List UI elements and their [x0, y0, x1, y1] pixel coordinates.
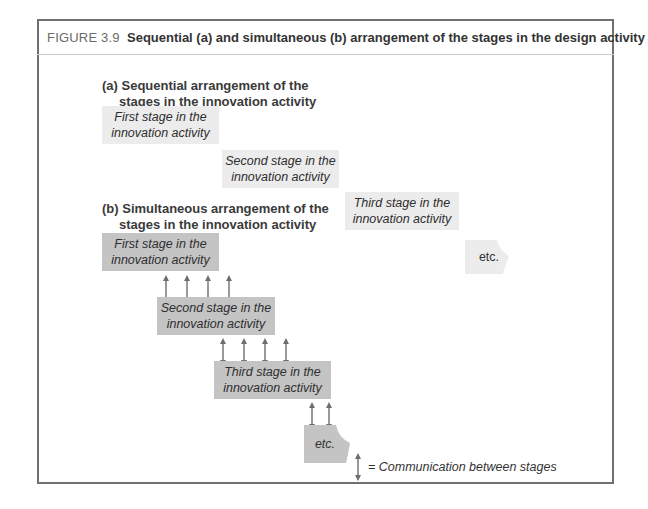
seq-stage-3-line1: Third stage in the [354, 196, 451, 210]
sim-stage-3-line1: Third stage in the [224, 365, 321, 379]
seq-stage-1-line1: First stage in the [114, 110, 206, 124]
double-arrow-icon [354, 452, 362, 482]
sim-stage-1: First stage in theinnovation activity [102, 233, 219, 271]
sim-stage-1-line1: First stage in the [114, 237, 206, 251]
legend-text: = Communication between stages [368, 460, 557, 474]
seq-etc-label: etc. [479, 250, 499, 264]
seq-stage-2-line2: innovation activity [231, 170, 330, 184]
sim-etc-label: etc. [315, 437, 335, 451]
sim-etc: etc. [304, 425, 354, 463]
section-b-heading-line1: (b) Simultaneous arrangement of the [102, 201, 329, 216]
legend: = Communication between stages [354, 452, 557, 482]
seq-stage-1: First stage in theinnovation activity [102, 106, 219, 144]
seq-stage-1-line2: innovation activity [111, 126, 210, 140]
section-b-heading: (b) Simultaneous arrangement of the stag… [102, 201, 329, 233]
seq-stage-2-line1: Second stage in the [225, 154, 336, 168]
section-a-heading-line1: (a) Sequential arrangement of the [102, 78, 309, 93]
figure-label: FIGURE 3.9 [47, 30, 120, 45]
seq-etc: etc. [465, 240, 513, 274]
sim-stage-2: Second stage in theinnovation activity [157, 297, 275, 335]
sim-stage-2-line1: Second stage in the [161, 301, 272, 315]
seq-stage-3-line2: innovation activity [353, 212, 452, 226]
sim-stage-1-line2: innovation activity [111, 253, 210, 267]
sim-stage-3: Third stage in theinnovation activity [214, 361, 331, 399]
section-b-heading-line2: stages in the innovation activity [102, 217, 329, 233]
sim-stage-2-line2: innovation activity [167, 317, 266, 331]
figure-title: Sequential (a) and simultaneous (b) arra… [127, 30, 645, 45]
sim-stage-3-line2: innovation activity [223, 381, 322, 395]
seq-stage-3: Third stage in theinnovation activity [345, 192, 459, 230]
seq-stage-2: Second stage in theinnovation activity [222, 150, 339, 188]
figure-caption: FIGURE 3.9 Sequential (a) and simultaneo… [37, 21, 614, 55]
